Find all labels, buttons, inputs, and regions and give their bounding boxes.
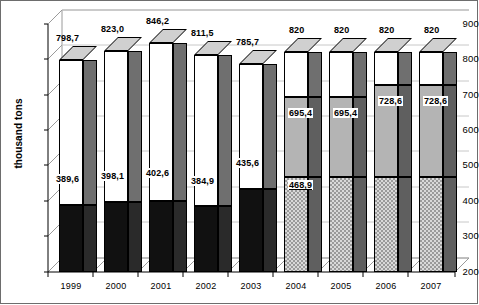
- bar-2004-upper-segment: [284, 52, 308, 97]
- value-label-top-2005: 820: [334, 25, 349, 35]
- value-label-top-2002: 811,5: [191, 28, 214, 38]
- value-label-top-2000: 823,0: [101, 24, 124, 34]
- value-label-mid-2005: 695,4: [333, 108, 358, 118]
- value-label-low-2004: 468,9: [288, 180, 313, 190]
- value-label-mid-2003: 435,6: [235, 158, 260, 168]
- x-tick-2004: 2004: [274, 281, 318, 291]
- bar-2006-upper-segment: [374, 52, 398, 85]
- bar-2003-lower-segment: [239, 189, 263, 272]
- y-axis: thousand tons: [0, 0, 58, 305]
- bar-2004-lower-segment: [284, 177, 308, 272]
- bar-1999-lower-segment: [59, 205, 83, 272]
- value-label-top-2003: 785,7: [236, 37, 259, 47]
- value-label-mid-1999: 389,6: [55, 174, 80, 184]
- bar-2006-lower-segment: [374, 177, 398, 272]
- chart-container: thousand tons 900 800 700 600 500 400 30…: [0, 0, 479, 305]
- bar-2007-upper-segment: [419, 52, 443, 85]
- value-label-mid-2002: 384,9: [190, 176, 215, 186]
- value-label-top-2004: 820: [289, 25, 304, 35]
- value-label-mid-2001: 402,6: [145, 168, 170, 178]
- value-label-mid-2004: 695,4: [288, 108, 313, 118]
- x-tick-2000: 2000: [94, 281, 138, 291]
- x-tick-2003: 2003: [229, 281, 273, 291]
- value-label-mid-2000: 398,1: [100, 171, 125, 181]
- bar-2005-upper-segment: [329, 52, 353, 97]
- value-label-top-2007: 820: [424, 25, 439, 35]
- bar-2001-lower-segment: [149, 201, 173, 272]
- bar-2003-upper-segment: [239, 64, 263, 189]
- bar-2002-lower-segment: [194, 206, 218, 272]
- x-tick-2007: 2007: [409, 281, 453, 291]
- x-tick-2005: 2005: [319, 281, 363, 291]
- value-label-mid-2006: 728,6: [378, 96, 403, 106]
- x-tick-2006: 2006: [364, 281, 408, 291]
- value-label-top-1999: 798,7: [56, 33, 79, 43]
- bar-2007-lower-segment: [419, 177, 443, 272]
- bar-2000-lower-segment: [104, 202, 128, 272]
- value-label-top-2001: 846,2: [146, 16, 169, 26]
- bar-2005-lower-segment: [329, 177, 353, 272]
- y-axis-title: thousand tons: [13, 64, 24, 204]
- y-tick-900: 900: [445, 18, 479, 29]
- x-tick-2002: 2002: [184, 281, 228, 291]
- value-label-top-2006: 820: [379, 25, 394, 35]
- x-tick-1999: 1999: [49, 281, 93, 291]
- x-tick-2001: 2001: [139, 281, 183, 291]
- value-label-mid-2007: 728,6: [423, 96, 448, 106]
